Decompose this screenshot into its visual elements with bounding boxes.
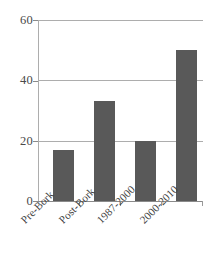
bar-pre-bork: [53, 150, 74, 201]
x-tick-sep-2: [120, 201, 121, 206]
y-tick-label-0: 0: [0, 195, 33, 208]
plot-area: [38, 20, 203, 201]
y-tick-label-60: 60: [0, 14, 33, 27]
y-tick-label-20: 20: [0, 135, 33, 148]
bar-post-bork: [94, 101, 115, 201]
x-tick-sep-3: [161, 201, 162, 206]
bar-chart: 60 40 20 0 Pre-Bork Post-Bork 1987-2000 …: [0, 0, 211, 278]
bar-2000-2010: [176, 50, 197, 201]
gridline-60: [38, 20, 203, 21]
bar-1987-2000: [135, 141, 156, 201]
y-tick-label-40: 40: [0, 74, 33, 87]
x-tick-sep-1: [79, 201, 80, 206]
x-tick-sep-4: [202, 201, 203, 206]
